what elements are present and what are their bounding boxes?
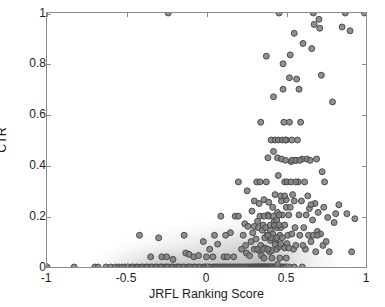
yticklabel-3: 0.6 [29, 107, 46, 121]
yticklabel-0: 0 [39, 260, 46, 274]
ytick-1 [47, 217, 51, 218]
xticklabel-3: 0.5 [278, 271, 295, 285]
ytick-right-5 [362, 14, 366, 15]
ytick-0 [47, 267, 51, 268]
ytick-right-1 [362, 217, 366, 218]
x-axis-label: JRFL Ranking Score [46, 287, 367, 301]
data-points [47, 13, 366, 267]
yticklabel-1: 0.2 [29, 209, 46, 223]
ytick-3 [47, 115, 51, 116]
ytick-4 [47, 64, 51, 65]
ytick-5 [47, 14, 51, 15]
y-axis-label: CTR [0, 127, 9, 153]
xtick-top-1 [127, 13, 128, 17]
xtick-1 [127, 263, 128, 267]
xticklabel-4: 1 [363, 271, 370, 285]
ytick-right-2 [362, 166, 366, 167]
ytick-right-3 [362, 115, 366, 116]
xtick-3 [287, 263, 288, 267]
scatter-plot-figure: -1 -0.5 0 0.5 1 0 0.2 0.4 0.6 0.8 1 JRFL… [0, 0, 385, 307]
xticklabel-2: 0 [203, 271, 210, 285]
ytick-right-0 [362, 267, 366, 268]
yticklabel-4: 0.8 [29, 56, 46, 70]
xtick-top-4 [366, 13, 367, 17]
xtick-top-3 [287, 13, 288, 17]
xtick-top-2 [207, 13, 208, 17]
xticklabel-1: -0.5 [116, 271, 137, 285]
xtick-4 [366, 263, 367, 267]
ytick-2 [47, 166, 51, 167]
yticklabel-2: 0.4 [29, 158, 46, 172]
plot-area [46, 12, 367, 268]
ytick-right-4 [362, 64, 366, 65]
yticklabel-5: 1 [39, 6, 46, 20]
xtick-2 [207, 263, 208, 267]
